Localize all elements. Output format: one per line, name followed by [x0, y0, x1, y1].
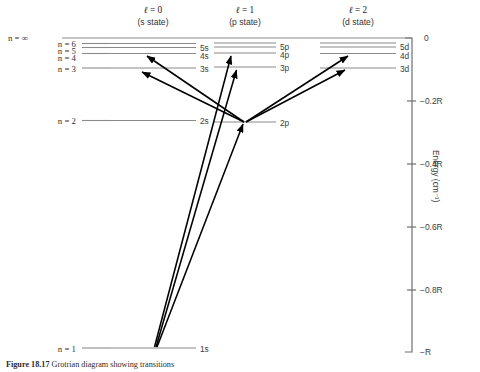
transition-2p-4s [147, 56, 244, 122]
figure-caption: Figure 18.17 Grotrian diagram showing tr… [6, 358, 476, 372]
column-header-s-state: (s state) [137, 17, 168, 27]
ground-state-level: 1s [110, 344, 209, 354]
level-label-4s: 4s [200, 51, 209, 61]
n-label-4: n = 4 [58, 53, 77, 63]
n-label-1: n = 1 [58, 344, 76, 354]
column-header-d-state: (d state) [342, 17, 374, 27]
svg-text:ℓ = 0: ℓ = 0 [144, 5, 163, 15]
n-label-2: n = 2 [58, 116, 76, 126]
transition-1s-4p [155, 56, 232, 347]
figure-container: ℓ = 0 (s state) ℓ = 1 (p state) ℓ = 2 (d… [0, 0, 480, 372]
transition-arrows [142, 56, 348, 347]
svg-text:ℓ = 2: ℓ = 2 [349, 5, 368, 15]
svg-text:ℓ = 1: ℓ = 1 [236, 5, 255, 15]
p-column-levels: 5p 4p 3p 2p [214, 42, 290, 128]
level-label-4d: 4d [400, 51, 410, 61]
level-label-4p: 4p [280, 50, 290, 60]
axis-label-0: 0 [424, 33, 429, 43]
axis-label-R: −R [420, 347, 431, 357]
grotrian-diagram: ℓ = 0 (s state) ℓ = 1 (p state) ℓ = 2 (d… [0, 0, 480, 372]
transition-2p-4d [246, 56, 348, 122]
axis-label-02R: −0.2R [420, 96, 443, 106]
axis-label-06R: −0.6R [420, 222, 443, 232]
transition-1s-2p [157, 124, 243, 347]
column-header-s: ℓ = 0 (s state) [137, 5, 168, 27]
continuum-label: n = ∞ [8, 33, 28, 43]
n-label-3: n = 3 [58, 64, 77, 74]
level-label-2p: 2p [280, 118, 290, 128]
caption-label: Figure 18.17 [6, 360, 50, 369]
column-header-d: ℓ = 2 (d state) [342, 5, 374, 27]
level-label-2s: 2s [200, 116, 209, 126]
level-label-3s: 3s [200, 64, 209, 74]
caption-text: Grotrian diagram showing transitions [52, 360, 175, 369]
axis-label-08R: −0.8R [420, 285, 443, 295]
level-label-3d: 3d [400, 64, 410, 74]
transition-2p-3d [246, 70, 345, 122]
level-label-1s: 1s [200, 344, 209, 354]
column-header-p-state: (p state) [229, 17, 261, 27]
d-column-levels: 5d 4d 3d [320, 42, 410, 74]
axis-title: Energy (cm⁻¹) [431, 150, 441, 202]
column-header-p: ℓ = 1 (p state) [229, 5, 261, 27]
level-label-3p: 3p [280, 63, 290, 73]
s-column-levels: 5s 4s 3s 2s [110, 43, 209, 127]
